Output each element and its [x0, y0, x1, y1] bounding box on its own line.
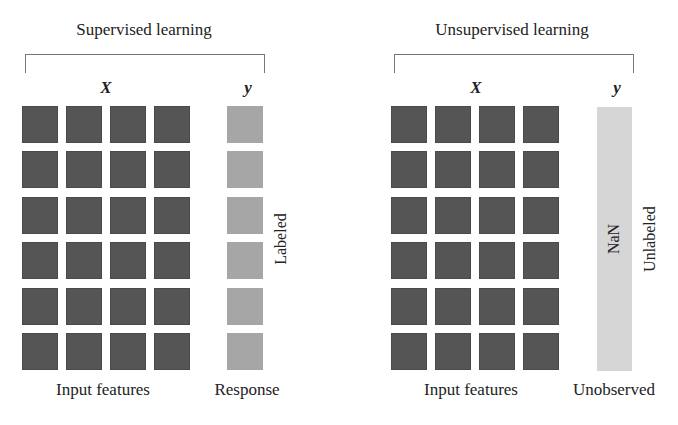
feature-cell [523, 333, 559, 370]
feature-cell [110, 151, 146, 188]
feature-cell [154, 288, 190, 325]
feature-cell [110, 197, 146, 234]
feature-cell [435, 288, 471, 325]
feature-cell [479, 197, 515, 234]
feature-cell [479, 333, 515, 370]
feature-cell [66, 151, 102, 188]
response-caption: Response [214, 380, 279, 400]
feature-cell [154, 151, 190, 188]
feature-cell [22, 288, 58, 325]
feature-cell [154, 106, 190, 143]
feature-cell [110, 242, 146, 279]
feature-cell [391, 333, 427, 370]
panel-title-unsupervised: Unsupervised learning [435, 20, 588, 40]
bracket-supervised [25, 54, 265, 73]
feature-cell [154, 242, 190, 279]
feature-cell [66, 197, 102, 234]
feature-cell [523, 242, 559, 279]
bracket-unsupervised [394, 54, 634, 73]
y-vector-label: y [613, 78, 621, 98]
feature-cell [523, 151, 559, 188]
feature-cell [523, 197, 559, 234]
feature-cell [479, 151, 515, 188]
response-cell [227, 151, 263, 188]
response-cell [227, 333, 263, 370]
panel-title-supervised: Supervised learning [76, 20, 212, 40]
feature-cell [391, 288, 427, 325]
x-matrix-label: X [470, 78, 481, 98]
feature-cell [22, 197, 58, 234]
x-matrix-label: X [100, 78, 111, 98]
response-cell [227, 288, 263, 325]
response-cell [227, 242, 263, 279]
feature-cell [22, 333, 58, 370]
feature-cell [391, 151, 427, 188]
unlabeled-side-label: Unlabeled [641, 206, 659, 272]
feature-cell [523, 288, 559, 325]
response-cell [227, 197, 263, 234]
unobserved-caption: Unobserved [573, 380, 655, 400]
feature-cell [22, 242, 58, 279]
feature-cell [391, 242, 427, 279]
y-vector-label: y [244, 78, 252, 98]
feature-cell [435, 106, 471, 143]
feature-cell [66, 106, 102, 143]
feature-cell [110, 288, 146, 325]
feature-cell [435, 151, 471, 188]
feature-cell [435, 242, 471, 279]
feature-cell [110, 333, 146, 370]
feature-cell [479, 242, 515, 279]
nan-label: NaN [605, 224, 623, 254]
feature-cell [391, 197, 427, 234]
feature-cell [479, 288, 515, 325]
feature-cell [110, 106, 146, 143]
feature-cell [391, 106, 427, 143]
feature-cell [22, 106, 58, 143]
input-features-caption: Input features [424, 380, 518, 400]
input-features-caption: Input features [56, 380, 150, 400]
feature-cell [435, 197, 471, 234]
feature-cell [22, 151, 58, 188]
feature-cell [479, 106, 515, 143]
feature-cell [66, 333, 102, 370]
feature-cell [154, 333, 190, 370]
labeled-side-label: Labeled [272, 213, 290, 265]
response-cell [227, 106, 263, 143]
feature-cell [66, 288, 102, 325]
feature-cell [523, 106, 559, 143]
feature-cell [435, 333, 471, 370]
feature-cell [154, 197, 190, 234]
feature-cell [66, 242, 102, 279]
